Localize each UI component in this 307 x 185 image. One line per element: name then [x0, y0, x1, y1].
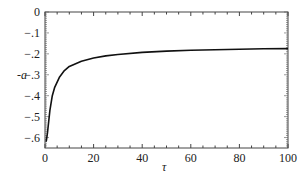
y-tick-label: −.6 — [24, 131, 40, 145]
x-tick-label: 80 — [233, 151, 245, 165]
y-tick-label: 0 — [34, 5, 40, 19]
y-axis-label: -a — [17, 68, 27, 83]
x-tick-label: 60 — [185, 151, 197, 165]
plot-frame — [45, 12, 288, 148]
line-chart: 0204060801000−.1−.2−.3−.4−.5−.6 — [0, 0, 307, 185]
data-line — [46, 49, 288, 142]
x-tick-label: 20 — [88, 151, 100, 165]
y-tick-label: −.4 — [24, 89, 40, 103]
y-tick-label: −.2 — [24, 47, 40, 61]
x-tick-label: 0 — [42, 151, 48, 165]
y-tick-label: −.1 — [24, 26, 40, 40]
x-axis-label: τ — [162, 160, 166, 175]
x-tick-label: 100 — [279, 151, 297, 165]
y-tick-label: −.5 — [24, 110, 40, 124]
x-tick-label: 40 — [136, 151, 148, 165]
